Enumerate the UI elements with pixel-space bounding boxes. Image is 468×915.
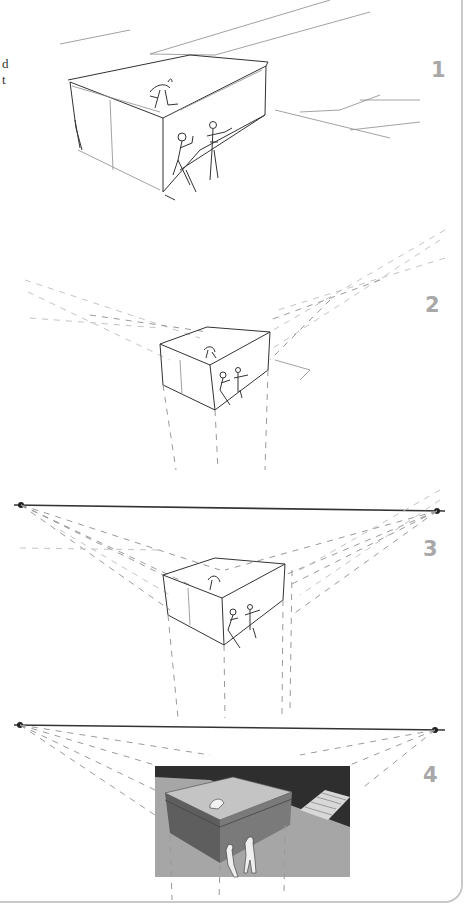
- step-4-render: [0, 715, 468, 915]
- step-3-horizon: [0, 480, 468, 730]
- rendered-scene-image: [155, 766, 350, 877]
- horizon-line: [14, 505, 445, 511]
- step-1-sketch: [0, 0, 468, 220]
- step-2-construction: [0, 220, 468, 480]
- horizon-line: [14, 725, 445, 730]
